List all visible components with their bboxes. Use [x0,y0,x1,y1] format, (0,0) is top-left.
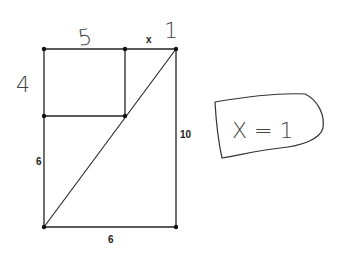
handwritten-5: 5 [76,24,93,51]
handwritten-1: 1 [164,18,178,43]
label-left-6: 6 [36,156,42,167]
answer-text: X = 1 [232,118,294,143]
label-x: x [146,34,152,45]
diagonal-line [44,49,176,227]
label-bottom-6: 6 [108,234,114,245]
inner-rectangle [44,49,125,116]
label-right-10: 10 [180,129,192,140]
handwritten-4: 4 [16,72,30,97]
geometry-diagram: x 10 6 6 5 1 4 X = 1 [0,0,341,256]
